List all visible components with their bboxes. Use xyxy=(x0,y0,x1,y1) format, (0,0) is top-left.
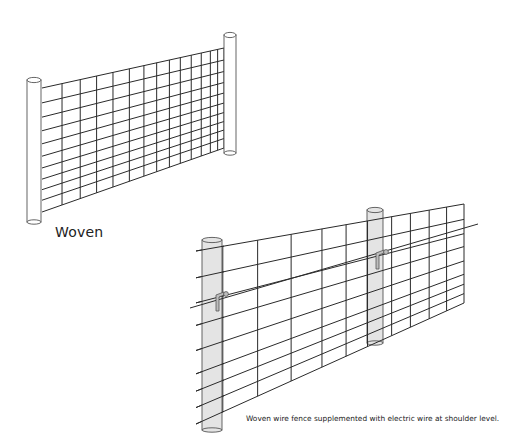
post-base xyxy=(202,428,222,432)
woven-label: Woven xyxy=(55,224,103,240)
post-top xyxy=(27,77,41,82)
horizontal-wire xyxy=(196,294,464,408)
horizontal-wire xyxy=(196,261,464,351)
woven-fence-diagram xyxy=(27,32,236,224)
horizontal-wire xyxy=(42,83,224,131)
horizontal-wire xyxy=(42,72,224,118)
horizontal-wire xyxy=(42,93,224,144)
right-post xyxy=(224,32,236,155)
electric-fence-diagram xyxy=(190,204,478,432)
horizontal-wire xyxy=(196,284,464,391)
insulator-knob xyxy=(224,292,229,297)
post-base xyxy=(27,220,41,224)
horizontal-wire xyxy=(196,247,464,326)
horizontal-wire xyxy=(42,148,224,212)
horizontal-wire xyxy=(42,122,224,180)
horizontal-wire xyxy=(196,219,464,277)
post-body xyxy=(367,210,383,343)
figure-caption: Woven wire fence supplemented with elect… xyxy=(246,414,499,423)
horizontal-wire xyxy=(42,48,224,88)
post-top xyxy=(367,207,383,212)
left-post xyxy=(27,77,41,224)
post-base xyxy=(224,151,236,155)
post-body xyxy=(224,35,236,153)
horizontal-wire xyxy=(42,60,224,103)
post-body xyxy=(202,240,222,430)
horizontal-wire xyxy=(196,303,464,424)
insulator-knob xyxy=(384,250,389,255)
horizontal-wire xyxy=(196,274,464,374)
post-top xyxy=(202,237,222,242)
right-post xyxy=(367,207,383,345)
post-body xyxy=(27,80,41,222)
post-top xyxy=(224,32,236,37)
wire-mesh xyxy=(196,204,464,424)
wire-mesh xyxy=(42,48,224,212)
left-post xyxy=(202,237,222,432)
